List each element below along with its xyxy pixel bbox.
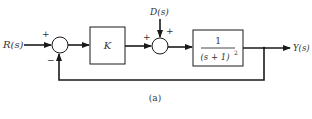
plus-sign-2-left: +: [143, 32, 151, 42]
plus-sign-2-top: +: [166, 26, 174, 36]
minus-sign-1: −: [47, 55, 55, 65]
plant-denominator: (s + 1): [201, 52, 230, 62]
plus-sign-1: +: [42, 29, 50, 39]
plant-exponent: 2: [234, 49, 238, 56]
summing-junction-1: [52, 37, 68, 53]
block-diagram: R(s) + − K + + D(s) 1 (s + 1) 2 Y(s) (a): [0, 0, 312, 119]
controller-label: K: [103, 40, 112, 51]
plant-numerator: 1: [215, 36, 221, 46]
output-label: Y(s): [293, 43, 310, 53]
summing-junction-2: [152, 38, 168, 54]
input-label: R(s): [2, 39, 24, 50]
disturbance-label: D(s): [149, 7, 169, 17]
caption: (a): [149, 93, 161, 103]
